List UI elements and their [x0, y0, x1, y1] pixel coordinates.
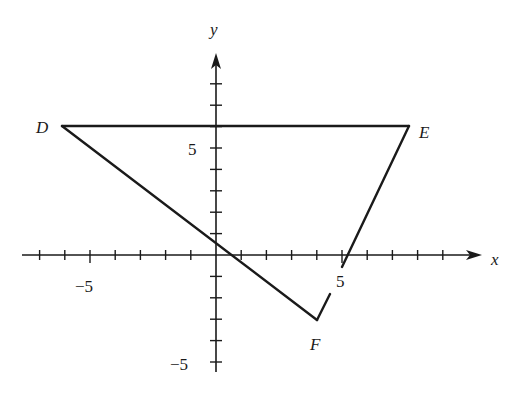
vertex-label-F: F [309, 335, 321, 354]
vertex-label-D: D [35, 118, 49, 137]
x-axis-label: x [490, 250, 499, 269]
coordinate-plane-figure: y x −5 5 5 −5 D E F [0, 0, 525, 393]
x-tick-label-neg5: −5 [75, 277, 93, 296]
vertex-label-E: E [418, 123, 430, 142]
y-axis-label: y [208, 20, 218, 39]
triangle-DEF [62, 126, 409, 320]
y-tick-label-neg5: −5 [170, 355, 188, 374]
diagram-canvas: y x −5 5 5 −5 D E F [0, 0, 525, 393]
side-EF-lower-segment [317, 294, 330, 320]
side-EF-upper-segment [342, 126, 409, 267]
y-tick-label-5: 5 [188, 140, 197, 159]
x-tick-label-5: 5 [336, 272, 345, 291]
axes [22, 64, 472, 372]
